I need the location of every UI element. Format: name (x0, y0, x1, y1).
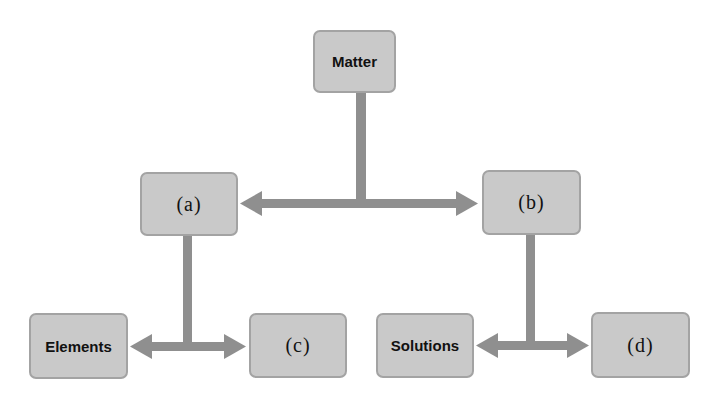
connector-b-stem (526, 234, 535, 346)
node-label: Matter (332, 53, 377, 70)
node-label: Elements (45, 338, 112, 355)
arrowhead-left-icon (476, 333, 498, 358)
arrowhead-left-icon (130, 334, 152, 359)
arrowhead-right-icon (567, 333, 589, 358)
node-label: (d) (627, 334, 653, 357)
node-label: (a) (176, 193, 201, 216)
matter-classification-diagram: Matter (a) (b) Elements (c) Solutions (d… (0, 0, 713, 402)
node-label: (b) (518, 191, 544, 214)
node-a: (a) (140, 172, 238, 236)
arrowhead-right-icon (224, 334, 246, 359)
arrowhead-right-icon (456, 191, 478, 216)
node-c: (c) (249, 313, 347, 378)
node-label: Solutions (391, 337, 459, 354)
node-elements: Elements (29, 313, 128, 379)
node-b: (b) (482, 170, 581, 235)
connector-a-stem (183, 235, 192, 347)
node-label: (c) (285, 334, 310, 357)
connector-matter-branch (258, 199, 460, 208)
node-matter: Matter (313, 30, 396, 93)
arrowhead-left-icon (240, 191, 262, 216)
node-solutions: Solutions (376, 313, 474, 378)
connector-matter-stem (356, 92, 366, 204)
node-d: (d) (591, 312, 690, 378)
connector-a-branch (148, 342, 228, 351)
connector-b-branch (494, 341, 571, 350)
